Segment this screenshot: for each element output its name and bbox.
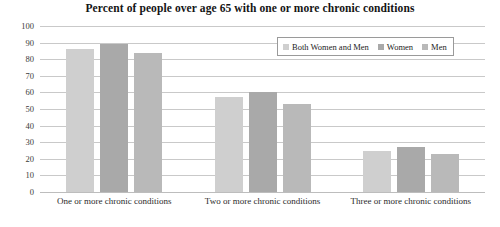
bar	[283, 104, 311, 192]
legend-swatch-icon	[283, 44, 289, 50]
gridline	[40, 192, 485, 193]
y-axis-tick-label: 60	[0, 87, 34, 97]
x-axis-category-label: Three or more chronic conditions	[337, 196, 485, 206]
chart-legend: Both Women and MenWomenMen	[277, 37, 454, 56]
legend-swatch-icon	[422, 44, 428, 50]
bar	[397, 147, 425, 192]
y-axis-tick-label: 100	[0, 21, 34, 31]
legend-item[interactable]: Women	[378, 42, 413, 52]
legend-item[interactable]: Men	[422, 42, 447, 52]
bar	[100, 44, 128, 192]
x-axis-category-label: One or more chronic conditions	[40, 196, 188, 206]
chart-title: Percent of people over age 65 with one o…	[0, 2, 500, 14]
y-axis-tick-label: 20	[0, 154, 34, 164]
bar	[363, 151, 391, 193]
y-axis-tick-label: 90	[0, 38, 34, 48]
x-axis-category-label: Two or more chronic conditions	[188, 196, 336, 206]
legend-swatch-icon	[378, 44, 384, 50]
y-axis-tick-label: 50	[0, 104, 34, 114]
legend-label: Women	[387, 42, 413, 52]
y-axis-tick-label: 10	[0, 170, 34, 180]
y-axis-tick-label: 40	[0, 121, 34, 131]
chart-container: Percent of people over age 65 with one o…	[0, 0, 500, 227]
legend-label: Men	[431, 42, 447, 52]
bar	[215, 97, 243, 192]
bar	[134, 53, 162, 192]
y-axis-tick-label: 30	[0, 137, 34, 147]
y-axis-tick-label: 70	[0, 71, 34, 81]
y-axis-labels: 1009080706050403020100	[0, 26, 36, 192]
bar	[431, 154, 459, 192]
y-axis-tick-label: 80	[0, 54, 34, 64]
bar	[66, 49, 94, 192]
x-axis-labels: One or more chronic conditionsTwo or mor…	[40, 196, 485, 212]
legend-label: Both Women and Men	[292, 42, 369, 52]
legend-item[interactable]: Both Women and Men	[283, 42, 369, 52]
y-axis-tick-label: 0	[0, 187, 34, 197]
bar	[249, 92, 277, 192]
